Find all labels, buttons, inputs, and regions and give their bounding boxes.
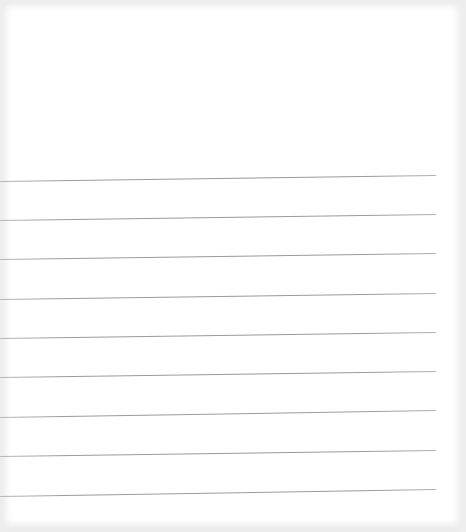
ruled-line — [0, 332, 436, 339]
sheet-edge-shadow-right — [452, 0, 466, 532]
ruled-line — [0, 410, 436, 418]
ruled-line — [0, 175, 436, 182]
lined-paper-sheet — [0, 0, 466, 532]
ruled-line — [0, 253, 436, 260]
ruled-line — [0, 293, 436, 300]
ruled-line — [0, 371, 436, 378]
sheet-edge-shadow-bottom — [0, 520, 466, 532]
sheet-edge-shadow-top — [0, 0, 466, 6]
ruled-line — [0, 489, 436, 497]
ruled-line — [0, 450, 436, 457]
ruled-line — [0, 214, 436, 221]
sheet-edge-shadow-left — [0, 0, 6, 532]
